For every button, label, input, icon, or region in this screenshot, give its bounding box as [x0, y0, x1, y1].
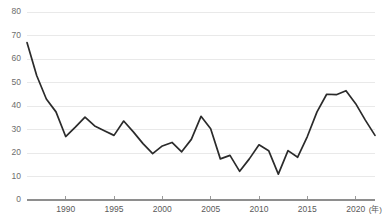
x-axis-tick-labels: 1990199520002005201020152020: [56, 204, 365, 214]
line-chart-figure: 01020304050607080 1990199520002005201020…: [0, 0, 383, 222]
data-series-line: [27, 43, 375, 175]
x-axis-tick-label: 2005: [201, 204, 220, 214]
x-axis-tick-label: 1990: [56, 204, 75, 214]
y-axis-tick-label: 10: [12, 171, 22, 181]
x-axis-tick-label: 2000: [153, 204, 172, 214]
y-axis-tick-label: 60: [12, 53, 22, 63]
figure-caption-strip: [0, 216, 383, 222]
chart-canvas: 01020304050607080 1990199520002005201020…: [0, 0, 383, 222]
y-axis-tick-label: 0: [16, 194, 21, 204]
y-axis-tick-label: 80: [12, 6, 22, 16]
y-axis-tick-labels: 01020304050607080: [12, 6, 22, 204]
y-axis-tick-label: 70: [12, 30, 22, 40]
gridlines: [27, 12, 375, 177]
x-axis-tick-label: 2010: [250, 204, 269, 214]
x-axis-tick-label: 1995: [105, 204, 124, 214]
y-axis-tick-label: 50: [12, 77, 22, 87]
y-axis-tick-label: 40: [12, 100, 22, 110]
x-axis-tick-label: 2020: [346, 204, 365, 214]
x-axis-unit-label: (年): [369, 204, 383, 214]
y-axis-tick-label: 20: [12, 147, 22, 157]
x-axis-tick-marks: [66, 196, 356, 200]
x-axis-tick-label: 2015: [298, 204, 317, 214]
y-axis-tick-label: 30: [12, 124, 22, 134]
